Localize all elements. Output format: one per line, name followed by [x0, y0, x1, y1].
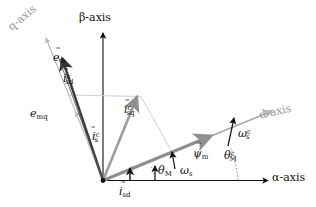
rate-omega-s-arrow	[172, 152, 175, 169]
angle-theta-M-arc	[151, 166, 155, 181]
vector-label-i-sd: ⃗ isd	[119, 186, 131, 199]
vector-diagram: β-axis α-axis q-axis d-axis ⃗ em emq ⃗ i…	[0, 0, 316, 207]
vector-label-i-s-c: ⃗ ics	[92, 131, 98, 144]
angle-label-theta-M-c: θcM	[224, 150, 237, 163]
vector-label-i-sd-c: ⃗ icsd	[63, 73, 74, 86]
rate-omega-s-c-arrow	[228, 118, 234, 146]
alpha-axis-label: α-axis	[272, 172, 305, 183]
vector-label-e-m: ⃗ em	[53, 52, 66, 65]
vector-label-i-sq-c: ⃗ icsq	[124, 104, 135, 117]
rate-label-omega-s-c: ωcs	[238, 128, 250, 141]
vector-label-psi-m: ⃗ ψm	[193, 148, 208, 161]
beta-axis-label: β-axis	[79, 12, 111, 23]
origin-point	[101, 178, 106, 183]
angle-label-theta-M: θM	[158, 165, 172, 178]
vector-label-e-mq: emq	[30, 108, 48, 121]
rate-label-omega-s: ωs	[180, 165, 193, 178]
